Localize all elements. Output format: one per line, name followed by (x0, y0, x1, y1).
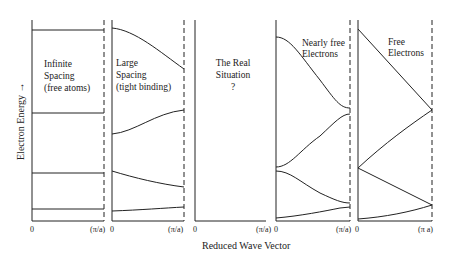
x-tick-start: 0 (30, 225, 34, 234)
x-tick-end: (π/a) (168, 225, 183, 234)
panel-title-line: Infinite (44, 59, 72, 69)
panel-title-line: Large (116, 58, 138, 68)
energy-band (276, 207, 350, 218)
x-tick-start: 0 (193, 225, 197, 234)
band-structure-diagram: Electron Energy → Infinite Spacing (free… (0, 0, 458, 253)
panel-real-situation (195, 20, 266, 221)
energy-band (276, 114, 350, 167)
x-tick-end: (π a) (418, 225, 433, 234)
panel-title-line: ? (231, 82, 235, 92)
energy-band (358, 205, 432, 219)
x-tick-start: 0 (274, 225, 278, 234)
panel-title-line: Situation (216, 70, 251, 80)
energy-band (112, 110, 184, 134)
panel-title-line: Spacing (116, 70, 147, 80)
x-tick-end: (π/a) (90, 225, 105, 234)
x-tick-start: 0 (355, 225, 359, 234)
x-tick-end: (π/a) (256, 225, 271, 234)
panel-title-line: Nearly free (302, 38, 345, 48)
energy-band (276, 171, 350, 203)
panel-title-line: (free atoms) (44, 83, 90, 94)
panel-title-line: Electrons (302, 49, 338, 59)
energy-band (112, 171, 184, 187)
panel-title-line: (tight binding) (116, 82, 171, 93)
panel-title-line: Spacing (44, 71, 75, 81)
panel-title-line: Electrons (388, 48, 424, 58)
panel-title-line: Free (388, 37, 405, 47)
x-tick-start: 0 (110, 225, 114, 234)
x-tick-end: (π/a) (336, 225, 351, 234)
panel-infinite-spacing (32, 20, 104, 221)
y-axis-label: Electron Energy → (15, 82, 26, 160)
energy-band (358, 110, 432, 168)
panel-title-line: The Real (216, 58, 251, 68)
energy-band (358, 168, 432, 205)
x-axis-label: Reduced Wave Vector (202, 240, 291, 251)
energy-band (112, 207, 184, 211)
panel-large-spacing (112, 20, 184, 221)
